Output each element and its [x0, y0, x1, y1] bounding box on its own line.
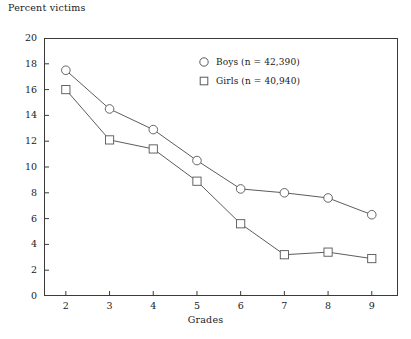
y-tick-label: 14: [7, 110, 37, 120]
x-tick-label: 3: [98, 301, 122, 311]
x-axis-title: Grades: [0, 314, 411, 325]
line-chart: Percent victims 02468101214161820 234567…: [0, 0, 411, 339]
x-tick-label: 2: [54, 301, 78, 311]
legend-item-girls: Girls (n = 40,940): [198, 71, 300, 90]
y-tick-label: 10: [7, 162, 37, 172]
y-tick-label: 6: [7, 214, 37, 224]
x-tick-label: 9: [360, 301, 384, 311]
y-tick-label: 0: [7, 291, 37, 301]
x-tick-label: 4: [141, 301, 165, 311]
y-tick-label: 16: [7, 85, 37, 95]
y-tick-label: 2: [7, 265, 37, 275]
y-tick-label: 12: [7, 136, 37, 146]
square-marker-icon: [198, 75, 216, 87]
x-tick-label: 7: [272, 301, 296, 311]
y-tick-label: 18: [7, 59, 37, 69]
chart-legend: Boys (n = 42,390) Girls (n = 40,940): [198, 52, 300, 90]
x-tick-label: 8: [316, 301, 340, 311]
y-tick-label: 20: [7, 33, 37, 43]
legend-label-girls: Girls (n = 40,940): [216, 76, 300, 86]
circle-marker-icon: [198, 56, 216, 68]
y-axis-title: Percent victims: [8, 2, 86, 13]
legend-item-boys: Boys (n = 42,390): [198, 52, 300, 71]
y-tick-label: 8: [7, 188, 37, 198]
x-tick-label: 5: [185, 301, 209, 311]
y-tick-label: 4: [7, 239, 37, 249]
legend-label-boys: Boys (n = 42,390): [216, 57, 300, 67]
x-tick-label: 6: [229, 301, 253, 311]
